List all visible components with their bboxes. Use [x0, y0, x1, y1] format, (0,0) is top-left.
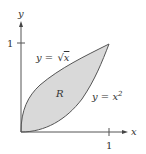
sqrt-label: y = √x — [35, 52, 70, 63]
y-tick-label: 1 — [7, 38, 13, 49]
region-label: R — [55, 88, 64, 99]
x-axis-label: x — [131, 126, 137, 137]
x-tick-label: 1 — [106, 140, 112, 151]
y-axis-arrow-icon — [19, 21, 23, 27]
square-label: y = x2 — [91, 90, 123, 102]
region-diagram: x y 1 1 y = √x y = x2 R — [0, 0, 146, 154]
x-axis-arrow-icon — [122, 130, 128, 134]
y-axis-label: y — [17, 8, 24, 19]
